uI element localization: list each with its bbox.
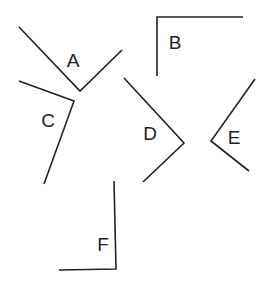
angle-f: [59, 181, 116, 270]
angle-e: [211, 79, 255, 171]
angles-diagram: A B C D E F: [0, 0, 272, 288]
label-c: C: [41, 111, 55, 130]
label-a: A: [67, 51, 80, 70]
label-d: D: [143, 124, 157, 143]
label-f: F: [97, 235, 109, 254]
label-e: E: [228, 128, 241, 147]
angle-c: [19, 81, 74, 184]
label-b: B: [169, 33, 182, 52]
